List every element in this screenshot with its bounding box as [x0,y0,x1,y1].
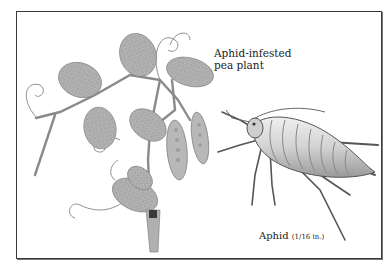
pea-plant [26,28,216,252]
leaf [124,102,173,148]
plant-caption: Aphid-infested pea plant [214,47,291,71]
leaf [163,52,217,91]
pea-pods [164,111,211,181]
aphid-eye [252,122,255,125]
aphid-head [247,118,263,138]
plant-caption-line2: pea plant [214,59,291,71]
aphid-size-label: (1/16 in.) [292,233,324,241]
leaf [114,28,163,82]
leaf [54,57,107,104]
aphid-caption-label: Aphid [259,230,289,241]
plant-caption-line1: Aphid-infested [214,47,291,59]
plant-stem [35,75,190,250]
aphid [218,108,378,240]
illustration [0,0,391,267]
leaf [81,105,120,152]
pea-pod [188,111,211,165]
stem-node [149,210,157,218]
aphid-caption: Aphid (1/16 in.) [259,230,324,243]
